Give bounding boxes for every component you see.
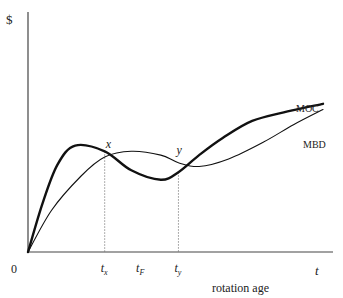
series-line-moc	[28, 104, 323, 252]
tick-label-t-F-subscript: F	[138, 268, 144, 277]
tick-label-t-y-subscript: y	[177, 268, 182, 277]
tick-labels: txtytF	[101, 261, 182, 277]
series-group	[28, 104, 323, 252]
series-label-moc: MOC	[296, 103, 319, 114]
tick-label-t-y: ty	[174, 261, 181, 277]
series-label-mbd: MBD	[303, 139, 326, 150]
tick-label-t-x: tx	[101, 261, 108, 277]
tick-label-t-x-subscript: x	[103, 268, 108, 277]
vertical-guides	[105, 151, 179, 252]
x-axis-symbol: t	[315, 263, 319, 278]
origin-label: 0	[11, 262, 17, 276]
intersection-label-x: x	[105, 137, 112, 151]
series-line-mbd	[28, 110, 323, 253]
tick-label-t-F: tF	[136, 261, 144, 277]
y-axis-label: $	[6, 12, 13, 27]
x-axis-label: rotation age	[212, 281, 269, 295]
intersection-label-y: y	[175, 143, 182, 157]
chart: $ 0 t rotation age MOCMBDxy txtytF	[0, 0, 343, 298]
